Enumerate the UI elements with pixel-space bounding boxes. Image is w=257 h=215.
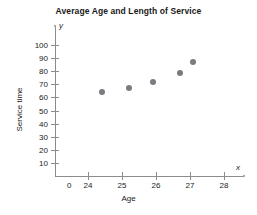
y-tick-mark bbox=[51, 71, 59, 72]
data-point bbox=[126, 85, 132, 91]
y-tick-mark bbox=[51, 58, 59, 59]
x-axis-arrow-icon bbox=[243, 175, 245, 177]
y-tick-label: 100 bbox=[14, 41, 48, 50]
data-point bbox=[177, 70, 183, 76]
x-axis-line bbox=[55, 176, 243, 177]
x-tick-mark bbox=[190, 172, 191, 180]
x-tick-mark bbox=[88, 172, 89, 180]
y-tick-mark bbox=[51, 45, 59, 46]
x-tick-label: 24 bbox=[73, 181, 103, 190]
y-tick-label: 90 bbox=[14, 54, 48, 63]
y-axis-title: Service time bbox=[15, 70, 24, 150]
y-tick-mark bbox=[51, 97, 59, 98]
x-axis-symbol: x bbox=[236, 163, 240, 172]
y-tick-mark bbox=[51, 137, 59, 138]
chart-title: Average Age and Length of Service bbox=[0, 6, 257, 16]
x-tick-mark bbox=[122, 172, 123, 180]
y-tick-mark bbox=[51, 150, 59, 151]
y-tick-mark bbox=[51, 111, 59, 112]
x-tick-label: 25 bbox=[107, 181, 137, 190]
x-tick-label: 27 bbox=[175, 181, 205, 190]
y-axis-symbol: y bbox=[59, 21, 63, 30]
x-tick-mark bbox=[224, 172, 225, 180]
y-tick-mark bbox=[51, 84, 59, 85]
y-axis-arrow-icon bbox=[54, 25, 56, 27]
scatter-chart: Average Age and Length of Service y x 10… bbox=[0, 0, 257, 215]
y-tick-mark bbox=[51, 124, 59, 125]
x-tick-label: 28 bbox=[209, 181, 239, 190]
y-tick-label: 10 bbox=[14, 158, 48, 167]
x-tick-label: 26 bbox=[141, 181, 171, 190]
y-tick-mark bbox=[51, 163, 59, 164]
data-point bbox=[150, 79, 156, 85]
x-tick-mark bbox=[156, 172, 157, 180]
data-point bbox=[190, 59, 196, 65]
y-axis-line bbox=[55, 27, 56, 177]
x-axis-title: Age bbox=[0, 194, 257, 203]
data-point bbox=[99, 89, 105, 95]
